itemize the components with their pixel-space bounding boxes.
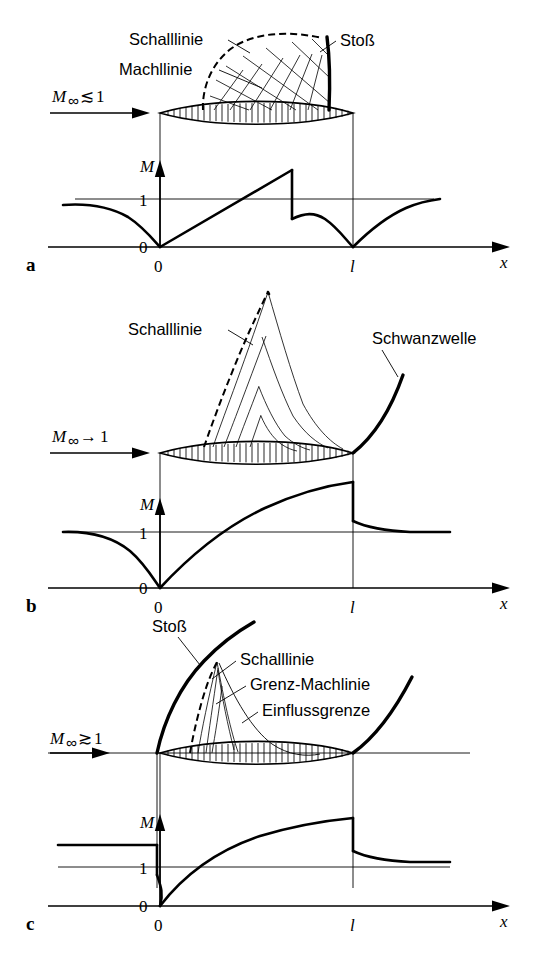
panel-c-ytick-0: 0 [139,897,148,916]
panel-b-xtick-0: 0 [154,598,163,617]
figure-root: M ∞ ≲ 1 Schalllinie Machllinie Stoß M x … [0,0,534,953]
panel-b-x-axis-arrow [492,583,510,594]
panel-c-x-axis-arrow [492,901,510,912]
panel-c-letter: c [26,913,34,934]
panel-c-label-shock: Stoß [152,617,187,635]
panel-a: M ∞ ≲ 1 Schalllinie Machllinie Stoß M x … [26,30,510,276]
panel-a-xtick-0: 0 [154,257,163,276]
panel-b-ytick-1: 1 [139,524,148,543]
panel-c-label-influence-boundary: Einflussgrenze [262,701,370,719]
panel-c-xtick-0: 0 [154,916,163,935]
panel-a-sonic-line [203,34,322,110]
panel-a-letter: a [26,254,36,275]
panel-a-shock-line [327,37,330,110]
panel-c-freestream-arrow [50,748,110,759]
panel-b-xtick-l: l [350,598,355,617]
panel-b-letter: b [26,595,37,616]
panel-c-x-axis-label: x [499,912,508,931]
panel-b-flow-label-M: M [51,427,67,446]
panel-b-label-sonic-line: Schalllinie [128,320,202,338]
panel-a-ytick-0: 0 [139,238,148,257]
panel-a-x-axis-arrow [492,242,510,253]
panel-a-curve-surface [160,170,292,247]
panel-a-freestream-arrow [50,108,150,119]
panel-c-curve-surface [160,818,353,906]
panel-b-tail-wave [353,375,403,453]
panel-b-flow-label-value: 1 [100,427,109,446]
panel-a-label-mach-line: Machllinie [119,60,192,78]
panel-c-ytick-1: 1 [139,859,148,878]
panel-b-curve-surface [160,482,353,588]
panel-c-xtick-l: l [350,916,355,935]
flow-diagram-svg: M ∞ ≲ 1 Schalllinie Machllinie Stoß M x … [0,0,534,953]
panel-a-mach-line-net [210,39,330,110]
panel-a-flow-label-infinity: ∞ [68,92,79,109]
panel-a-x-axis-label: x [499,253,508,272]
panel-a-y-axis-label: M [139,157,155,176]
panel-c-mach-line-family [198,662,238,753]
panel-b-y-axis-arrow [155,498,165,515]
panel-b-flow-label-infinity: ∞ [68,432,79,449]
panel-a-curve-postshock [292,214,353,247]
panel-a-curve-wake [353,199,440,247]
panel-c-flow-label-value: 1 [94,729,103,748]
panel-a-xtick-l: l [350,257,355,276]
panel-b-apex [268,292,269,294]
panel-c-y-axis-label: M [139,813,155,832]
panel-b-freestream-arrow [50,448,150,459]
panel-b-x-axis-label: x [499,594,508,613]
panel-c-y-axis-arrow [155,814,165,831]
panel-b-flow-label-relation: → [80,427,97,446]
panel-a-flow-label-M: M [51,87,67,106]
panel-b-label-tail-wave: Schwanzwelle [372,329,477,347]
panel-c-flow-label-infinity: ∞ [66,734,77,751]
panel-c-curve-wake [353,851,450,862]
panel-b-leader-tail-wave [382,350,398,377]
panel-c-leader-influence-boundary [242,712,258,723]
panel-c-label-sonic-line: Schalllinie [240,650,314,668]
panel-a-leader-sonic-line [228,40,250,53]
panel-c-flow-label-M: M [49,729,65,748]
panel-a-ytick-1: 1 [139,191,148,210]
panel-a-y-axis-arrow [155,160,165,177]
panel-c-label-limiting-mach: Grenz-Machlinie [250,675,370,693]
panel-a-label-shock: Stoß [340,31,375,49]
panel-c-flow-label-relation: ≳ [78,729,92,748]
panel-b-y-axis-label: M [139,495,155,514]
panel-b-airfoil [160,441,353,464]
panel-a-flow-label-value: 1 [96,87,105,106]
panel-a-airfoil [160,101,353,124]
panel-c-leader-shock [178,637,200,665]
panel-a-flow-label-relation: ≲ [80,87,94,106]
panel-a-label-sonic-line: Schalllinie [129,30,203,48]
panel-c-sonic-line [190,662,217,753]
panel-c: M ∞ ≳ 1 Stoß Schalllinie Grenz-Machlinie… [26,617,510,935]
panel-b: M ∞ → 1 Schalllinie Schwanzwelle M x 1 0… [26,292,510,617]
panel-b-curve-wake [353,521,450,532]
panel-b-ytick-0: 0 [139,579,148,598]
